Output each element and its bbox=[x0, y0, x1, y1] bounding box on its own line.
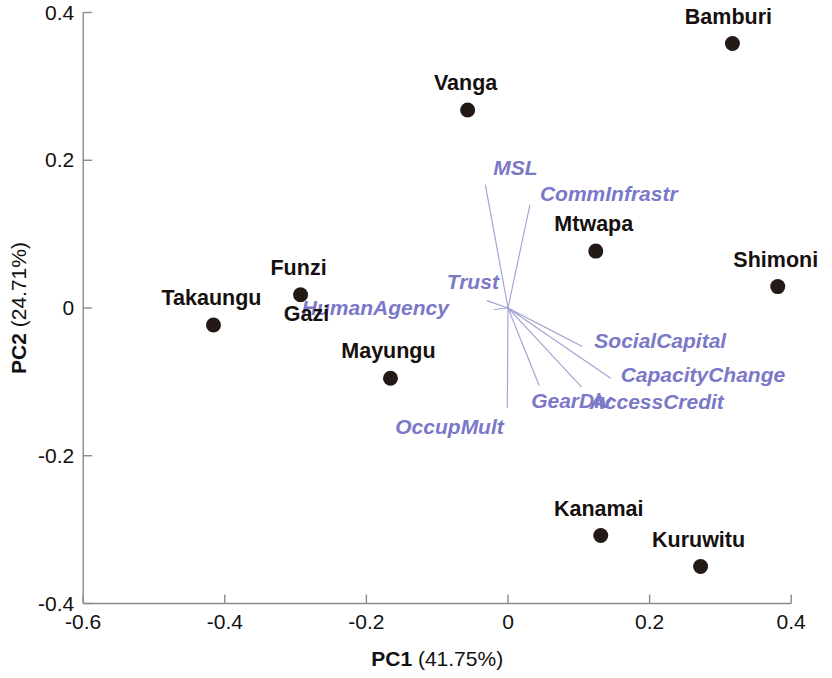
site-point-shimoni[interactable] bbox=[770, 279, 785, 294]
y-tick-label: -0.2 bbox=[38, 444, 74, 467]
vector-label-occupmult: OccupMult bbox=[395, 415, 505, 438]
loading-vector-comminfrastr bbox=[508, 205, 530, 308]
y-tick-label: 0.4 bbox=[45, 1, 75, 24]
y-tick-label: 0 bbox=[63, 296, 75, 319]
vector-label-geardiv: GearDiv bbox=[531, 389, 613, 412]
site-point-mayungu[interactable] bbox=[383, 371, 398, 386]
x-tick-label: 0 bbox=[502, 610, 514, 633]
x-axis-title: PC1 (41.75%) bbox=[371, 647, 503, 670]
vector-label-capacitychange: CapacityChange bbox=[621, 363, 786, 386]
site-label-funzi: Funzi bbox=[270, 256, 326, 280]
loading-vector-accesscredit bbox=[508, 308, 582, 387]
site-label-kanamai: Kanamai bbox=[554, 497, 644, 521]
vector-label-msl: MSL bbox=[493, 156, 537, 179]
x-axis-title-variance: (41.75%) bbox=[412, 647, 503, 670]
labels-group: MSLCommInfrastrTrustHumanAgencySocialCap… bbox=[161, 5, 818, 552]
site-point-bamburi[interactable] bbox=[725, 36, 740, 51]
loading-vector-socialcapital bbox=[508, 308, 582, 346]
site-point-kuruwitu[interactable] bbox=[693, 559, 708, 574]
site-point-kanamai[interactable] bbox=[593, 528, 608, 543]
site-label-shimoni: Shimoni bbox=[733, 248, 818, 272]
site-label-vanga: Vanga bbox=[434, 71, 498, 95]
site-label-kuruwitu: Kuruwitu bbox=[652, 528, 745, 552]
vector-label-comminfrastr: CommInfrastr bbox=[540, 182, 680, 205]
y-axis-title: PC2 (24.71%) bbox=[7, 242, 30, 374]
y-tick-label: 0.2 bbox=[45, 148, 74, 171]
biplot-canvas: -0.6-0.4-0.200.20.4-0.4-0.200.20.4 MSLCo… bbox=[0, 0, 832, 678]
site-label-bamburi: Bamburi bbox=[685, 5, 772, 29]
x-tick-label: -0.4 bbox=[207, 610, 244, 633]
y-axis-title-variance: (24.71%) bbox=[7, 242, 30, 333]
site-label-mtwapa: Mtwapa bbox=[554, 212, 634, 236]
y-axis-title-prefix: PC2 bbox=[7, 333, 30, 374]
pca-biplot: -0.6-0.4-0.200.20.4-0.4-0.200.20.4 MSLCo… bbox=[0, 0, 832, 678]
x-tick-label: 0.2 bbox=[635, 610, 664, 633]
site-label-gazi: Gazi bbox=[284, 302, 329, 326]
loading-vector-trust bbox=[487, 301, 508, 308]
vector-label-trust: Trust bbox=[447, 270, 500, 293]
site-label-takaungu: Takaungu bbox=[161, 286, 261, 310]
site-point-takaungu[interactable] bbox=[206, 317, 221, 332]
site-point-mtwapa[interactable] bbox=[588, 244, 603, 259]
vector-label-socialcapital: SocialCapital bbox=[594, 329, 727, 352]
site-point-vanga[interactable] bbox=[460, 103, 475, 118]
x-tick-label: 0.4 bbox=[777, 610, 807, 633]
loading-vector-occupmult bbox=[507, 308, 508, 408]
loading-vector-humanagency bbox=[494, 308, 508, 309]
loading-vector-geardiv bbox=[508, 308, 539, 386]
x-tick-label: -0.2 bbox=[348, 610, 384, 633]
site-label-mayungu: Mayungu bbox=[341, 339, 435, 363]
x-axis-title-prefix: PC1 bbox=[371, 647, 412, 670]
y-tick-label: -0.4 bbox=[38, 592, 75, 615]
